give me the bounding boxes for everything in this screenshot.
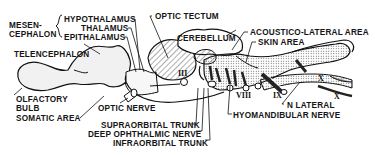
- label-hyomandibular-nerve: HYOMANDIBULAR NERVE: [233, 111, 340, 120]
- label-skin-area: SKIN AREA: [258, 38, 305, 47]
- label-acoustico-lateral-area: ACOUSTICO-LATERAL AREA: [250, 28, 369, 37]
- label-olfactory-bulb: OLFACTORY BULB: [16, 95, 68, 113]
- label-supraorbital-trunk: SUPRAORBITAL TRUNK: [101, 121, 200, 130]
- brain-diagram: MESEN- CEPHALON HYPOTHALAMUS THALAMUS EP…: [0, 0, 375, 155]
- numeral-iii: III: [178, 69, 187, 78]
- numeral-x-upper: X: [318, 74, 324, 83]
- label-cerebellum: CEREBELLUM: [177, 34, 236, 43]
- label-telencephalon: TELENCEPHALON: [14, 50, 89, 59]
- numeral-viii: VIII: [236, 91, 251, 100]
- label-optic-nerve: OPTIC NERVE: [98, 104, 156, 113]
- label-mesencephalon: MESEN- CEPHALON: [9, 21, 57, 39]
- label-epithalamus: EPITHALAMUS: [64, 33, 125, 42]
- label-infraorbital-trunk: INFRAORBITAL TRUNK: [113, 139, 208, 148]
- numeral-x-lower: X: [334, 92, 340, 101]
- label-hypothalamus: HYPOTHALAMUS: [64, 15, 136, 24]
- label-optic-tectum: OPTIC TECTUM: [155, 12, 219, 21]
- label-n-lateral: N LATERAL: [287, 101, 335, 110]
- label-deep-ophthalmic-nerve: DEEP OPHTHALMIC NERVE: [88, 130, 202, 139]
- label-thalamus: THALAMUS: [81, 24, 129, 33]
- numeral-ix: IX: [273, 91, 282, 100]
- label-somatic-area: SOMATIC AREA: [16, 114, 81, 123]
- label-mesencephalon-line2: CEPHALON: [9, 30, 57, 39]
- label-olfactory-line1: OLFACTORY: [16, 95, 68, 104]
- label-mesencephalon-line1: MESEN-: [9, 21, 57, 30]
- label-olfactory-line2: BULB: [16, 104, 68, 113]
